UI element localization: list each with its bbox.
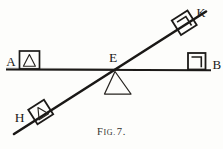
label-weight-k: K [197, 6, 206, 20]
label-weight-a: A [6, 54, 16, 69]
caption-smallcaps: IG [104, 128, 114, 137]
label-weight-b: B [213, 57, 222, 72]
figure-container: E A B H K FIG.7. [0, 0, 223, 149]
weight-box-b [188, 53, 206, 70]
label-fulcrum-e: E [109, 50, 117, 65]
label-weight-h: H [15, 110, 25, 125]
gamma-glyph-b [192, 57, 201, 66]
triangle-glyph-a [23, 55, 35, 67]
figure-caption: FIG.7. [0, 126, 223, 137]
weight-box-a [20, 51, 40, 69]
caption-number: 7. [117, 126, 126, 137]
caption-dot: . [113, 128, 116, 137]
